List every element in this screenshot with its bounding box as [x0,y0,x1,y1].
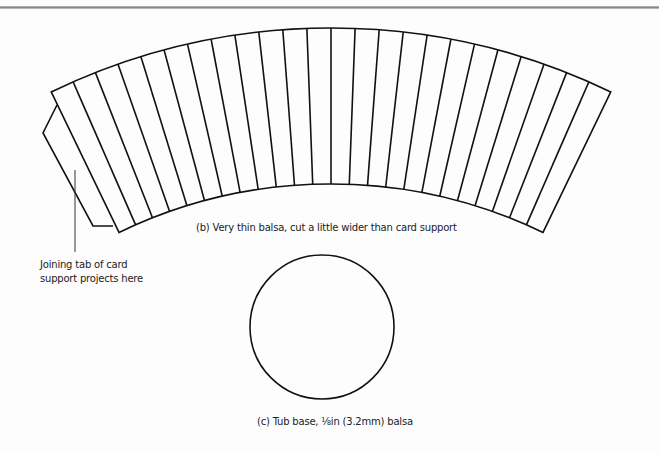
strip-divider [510,73,567,218]
tab-note-line-2: support projects here [40,273,143,284]
strip-divider [141,57,187,206]
strip-caption: (b) Very thin balsa, cut a little wider … [196,222,457,233]
strip-divider [307,28,313,184]
strip-divider [283,30,295,186]
strip-divider [259,32,276,187]
base-caption: (c) Tub base, ⅛in (3.2mm) balsa [257,416,413,427]
strip-divider [492,64,544,211]
strip-divider [235,35,258,189]
strip-divider [368,30,380,186]
strip-divider [386,32,403,187]
tub-base-circle [250,255,394,399]
strip-divider [349,28,355,184]
joining-tab-outline [43,105,113,226]
strip-divider [404,35,427,189]
strip-divider [457,50,497,201]
strip-divider [95,73,152,218]
tab-note-line-1: Joining tab of card [40,259,127,270]
strip-divider [475,57,521,206]
strip-divider [118,64,170,211]
curved-strip-piece [51,28,611,232]
strip-divider [164,50,204,201]
